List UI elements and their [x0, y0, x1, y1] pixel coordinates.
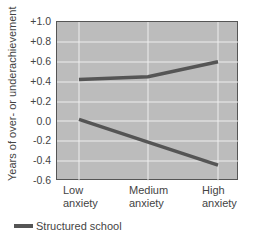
x-tick-medium: Medium anxiety [129, 184, 168, 210]
y-tick: -0.6 [33, 174, 51, 186]
y-tick: -0.4 [33, 154, 51, 166]
y-tick: -0.2 [33, 134, 51, 146]
y-tick: 0.0 [36, 115, 51, 127]
y-tick: +0.2 [30, 95, 51, 107]
y-tick: +0.4 [30, 75, 51, 87]
legend-swatch [14, 224, 33, 228]
legend: Structured school [14, 220, 122, 232]
y-tick: +1.0 [30, 15, 51, 27]
y-tick: +0.6 [30, 55, 51, 67]
plot-area [56, 21, 238, 180]
x-tick-low: Low anxiety [63, 184, 98, 210]
y-tick: +0.8 [30, 35, 51, 47]
gridlines [57, 22, 239, 181]
chart-lines [57, 22, 239, 181]
x-tick-high: High anxiety [202, 184, 237, 210]
legend-label: Structured school [36, 220, 122, 232]
y-axis-label: Years of over- or underachievement [6, 31, 20, 181]
